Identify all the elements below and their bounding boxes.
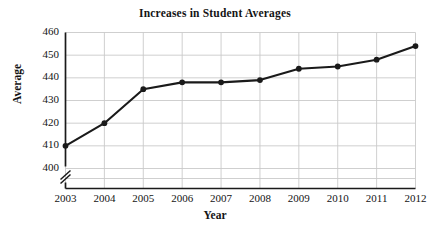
- chart-figure: Increases in Student Averages Average Ye…: [0, 0, 430, 234]
- x-tick-label: 2012: [396, 192, 430, 204]
- horizontal-gridlines: [66, 33, 416, 179]
- x-tick-label: 2005: [123, 192, 163, 204]
- y-tick-label: 450: [26, 48, 59, 60]
- y-tick-label: 410: [26, 138, 59, 150]
- x-tick-label: 2008: [240, 192, 280, 204]
- data-line-series-1: [66, 46, 416, 146]
- x-tick-label: 2010: [318, 192, 358, 204]
- x-tick-label: 2003: [46, 192, 86, 204]
- y-tick-label: 460: [26, 25, 59, 37]
- x-tick-label: 2007: [201, 192, 241, 204]
- y-tick-label: 400: [26, 161, 59, 173]
- x-tick-label: 2009: [279, 192, 319, 204]
- y-tick-label: 420: [26, 116, 59, 128]
- x-tick-label: 2006: [162, 192, 202, 204]
- y-tick-label: 430: [26, 93, 59, 105]
- x-tick-label: 2011: [357, 192, 397, 204]
- y-tick-label: 440: [26, 70, 59, 82]
- data-point-markers: [63, 43, 419, 149]
- x-tick-label: 2004: [84, 192, 124, 204]
